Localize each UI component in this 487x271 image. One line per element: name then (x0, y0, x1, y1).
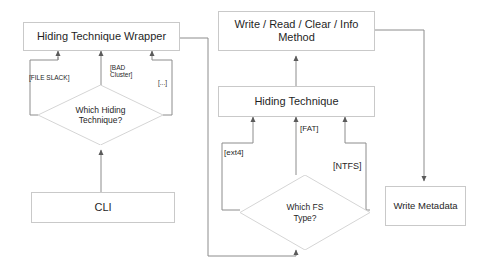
edge-label-fat: [FAT] (300, 124, 319, 133)
edge-method-to-write-metadata (375, 30, 424, 181)
node-hiding-technique-wrapper[interactable]: Hiding Technique Wrapper (23, 22, 180, 51)
edge-label-ntfs: [NTFS] (333, 161, 362, 171)
node-write-metadata[interactable]: Write Metadata (385, 186, 466, 226)
node-label: Which FS Type? (240, 175, 370, 250)
node-write-read-clear-info-method[interactable]: Write / Read / Clear / Info Method (218, 11, 375, 51)
node-cli[interactable]: CLI (31, 192, 175, 223)
edge-label-ellipsis: [...] (158, 79, 167, 86)
node-hiding-technique[interactable]: Hiding Technique (218, 86, 375, 117)
node-which-fs-type[interactable]: Which FS Type? (240, 175, 370, 250)
edge-label-ext4: [ext4] (224, 148, 244, 157)
edge-label-file-slack: [FILE SLACK] (29, 74, 69, 81)
node-label: Write / Read / Clear / Info Method (232, 18, 362, 44)
node-label: Hiding Technique (251, 95, 341, 108)
node-which-hiding-technique[interactable]: Which Hiding Technique? (38, 85, 163, 145)
node-label: Which Hiding Technique? (38, 85, 163, 145)
edge-label-bad-cluster: [BAD Cluster] (110, 64, 132, 79)
node-label: CLI (91, 201, 114, 214)
flowchart-canvas: Hiding Technique Wrapper Which Hiding Te… (0, 0, 487, 271)
node-label: Write Metadata (390, 200, 460, 211)
node-label: Hiding Technique Wrapper (34, 30, 169, 43)
